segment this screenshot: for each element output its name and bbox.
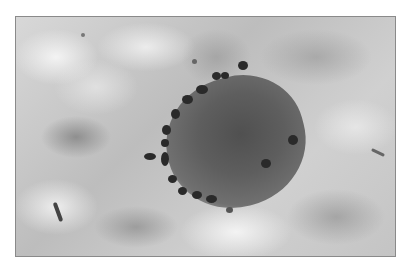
granule [162,125,171,135]
micrograph-frame [15,16,396,257]
speck [192,59,197,64]
granule [178,187,187,195]
granule [171,109,180,119]
granule [221,72,229,79]
granule [168,175,177,183]
granule [182,95,193,104]
speck [81,33,85,37]
granule [288,135,298,145]
granule [238,61,248,70]
granule [161,152,169,166]
granule [192,191,202,199]
granule [144,153,156,160]
granule [161,139,169,147]
granule [261,159,271,168]
granule [212,72,221,80]
granule [196,85,208,94]
granule [206,195,217,203]
speck [226,207,233,213]
